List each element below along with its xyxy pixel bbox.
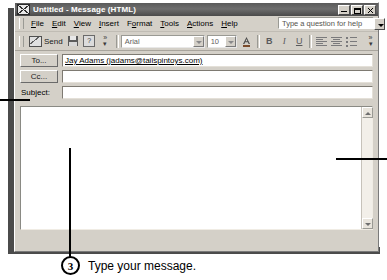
to-row: To... Jay Adams (jadams@tailspintoys.com… bbox=[20, 54, 373, 67]
underline-label: U bbox=[296, 36, 303, 46]
menu-item-view[interactable]: View bbox=[70, 18, 95, 29]
subject-input[interactable] bbox=[62, 86, 373, 99]
formatting-toolbar: Send ? »▾ Arial 10 B I U bbox=[15, 32, 378, 51]
message-body-input[interactable] bbox=[21, 107, 361, 229]
align-left-icon bbox=[316, 37, 327, 46]
menu-item-insert[interactable]: Insert bbox=[95, 18, 123, 29]
font-name-value: Arial bbox=[122, 37, 140, 46]
to-button[interactable]: To... bbox=[20, 54, 58, 67]
bullet-list-icon bbox=[346, 37, 357, 46]
title-bar[interactable]: Untitled - Message (HTML) bbox=[15, 3, 378, 16]
toolbar-options-button[interactable]: »▾ bbox=[365, 34, 376, 47]
cc-button[interactable]: Cc... bbox=[20, 70, 58, 83]
menu-item-format[interactable]: Format bbox=[123, 18, 156, 29]
menu-item-tools[interactable]: Tools bbox=[156, 18, 183, 29]
save-button[interactable] bbox=[66, 34, 81, 49]
font-size-value: 10 bbox=[208, 37, 219, 46]
callout-marker-3: 3 bbox=[61, 256, 80, 275]
message-body-container bbox=[20, 106, 373, 230]
window-title: Untitled - Message (HTML) bbox=[33, 5, 337, 14]
bold-button[interactable]: B bbox=[262, 34, 277, 49]
toolbar-grip[interactable] bbox=[19, 36, 24, 47]
align-center-button[interactable] bbox=[329, 34, 344, 49]
ask-a-question-box[interactable]: Type a question for help bbox=[278, 17, 374, 29]
subject-row: Subject: bbox=[20, 86, 373, 99]
align-center-icon bbox=[331, 37, 342, 46]
double-chevron-icon: »▾ bbox=[103, 35, 107, 47]
help-button[interactable]: ? bbox=[82, 34, 97, 49]
envelope-icon bbox=[17, 4, 30, 15]
minimize-button[interactable] bbox=[338, 5, 350, 15]
menubar-grip[interactable] bbox=[19, 18, 24, 29]
menu-item-edit[interactable]: Edit bbox=[48, 18, 70, 29]
ask-a-question-text: Type a question for help bbox=[279, 19, 362, 28]
ask-a-question-dropdown-icon[interactable] bbox=[374, 18, 385, 30]
menu-item-help[interactable]: Help bbox=[217, 18, 241, 29]
underline-button[interactable]: U bbox=[292, 34, 307, 49]
cc-row: Cc... bbox=[20, 70, 373, 83]
message-header-fields: To... Jay Adams (jadams@tailspintoys.com… bbox=[15, 51, 378, 104]
send-button-label: Send bbox=[44, 37, 63, 46]
leader-line-right bbox=[336, 158, 387, 160]
close-button[interactable] bbox=[364, 5, 376, 15]
leader-line-callout-3 bbox=[69, 148, 71, 257]
question-mark-icon: ? bbox=[83, 35, 95, 47]
to-input[interactable]: Jay Adams (jadams@tailspintoys.com) bbox=[62, 54, 373, 67]
font-name-combo[interactable]: Arial bbox=[121, 35, 205, 48]
font-color-button[interactable] bbox=[239, 34, 254, 49]
toolbar-separator bbox=[116, 35, 119, 48]
font-size-dropdown-icon[interactable] bbox=[225, 36, 236, 47]
font-color-icon bbox=[240, 35, 253, 48]
font-name-dropdown-icon[interactable] bbox=[193, 36, 204, 47]
callout-text-3: Type your message. bbox=[88, 259, 196, 273]
align-left-button[interactable] bbox=[314, 34, 329, 49]
toolbar-separator-3 bbox=[309, 35, 312, 48]
send-button[interactable]: Send bbox=[27, 34, 65, 49]
italic-label: I bbox=[283, 36, 286, 46]
scroll-down-icon[interactable] bbox=[362, 218, 373, 229]
toolbar-overflow-icon: »▾ bbox=[369, 35, 373, 47]
italic-button[interactable]: I bbox=[277, 34, 292, 49]
save-icon bbox=[68, 36, 78, 46]
bullets-button[interactable] bbox=[344, 34, 359, 49]
maximize-button[interactable] bbox=[351, 5, 363, 15]
cc-input[interactable] bbox=[62, 70, 373, 83]
send-icon bbox=[29, 36, 42, 47]
menu-item-actions[interactable]: Actions bbox=[183, 18, 217, 29]
bold-label: B bbox=[266, 36, 273, 46]
menu-item-file[interactable]: FFileile bbox=[27, 18, 48, 29]
toolbar-separator-2 bbox=[257, 35, 260, 48]
font-size-combo[interactable]: 10 bbox=[207, 35, 237, 48]
more-buttons-button[interactable]: »▾ bbox=[98, 34, 113, 49]
message-body-scrollbar[interactable] bbox=[361, 107, 372, 229]
scroll-up-icon[interactable] bbox=[362, 107, 373, 118]
leader-line-subject bbox=[0, 99, 30, 101]
to-recipient: Jay Adams (jadams@tailspintoys.com) bbox=[63, 56, 203, 65]
subject-label: Subject: bbox=[20, 88, 58, 97]
menu-bar: FFileile Edit View Insert Format Tools A… bbox=[15, 16, 378, 32]
